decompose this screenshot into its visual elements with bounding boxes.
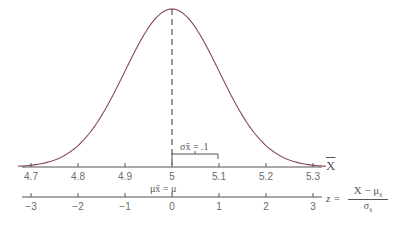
x-axis-label: X bbox=[326, 158, 335, 174]
z-formula-lhs: z = bbox=[326, 192, 340, 204]
z-formula-label: z = X − μx̄ σx̄ bbox=[326, 184, 396, 224]
z-tick-label: 3 bbox=[310, 201, 316, 212]
x-tick-label: 4.8 bbox=[71, 171, 85, 182]
z-formula-numerator-text: X − μ bbox=[354, 184, 380, 196]
z-formula-numerator-sub: x̄ bbox=[379, 192, 382, 198]
z-formula-fraction: X − μx̄ σx̄ bbox=[348, 184, 388, 213]
x-tick-label: 5.1 bbox=[212, 171, 226, 182]
std-error-bracket bbox=[172, 151, 218, 159]
z-formula-denominator-sub: x̄ bbox=[369, 207, 372, 213]
x-tick-label: 5.2 bbox=[259, 171, 273, 182]
z-formula-numerator: X − μx̄ bbox=[348, 184, 388, 200]
sigma-label: σx̄ = .1 bbox=[180, 141, 209, 152]
x-tick-label: 5 bbox=[169, 171, 175, 182]
mean-label-text: μx̄ = μ bbox=[150, 183, 176, 194]
z-tick-label: 0 bbox=[169, 201, 175, 212]
x-tick-label: 4.7 bbox=[24, 171, 38, 182]
x-tick-label: 4.9 bbox=[118, 171, 132, 182]
z-tick-label: 1 bbox=[216, 201, 222, 212]
x-axis-label-text: X bbox=[326, 158, 335, 173]
mean-label: μx̄ = μ bbox=[150, 183, 176, 194]
z-formula-denominator: σx̄ bbox=[348, 200, 388, 213]
z-tick-label: −2 bbox=[72, 201, 83, 212]
x-tick-label: 5.3 bbox=[306, 171, 320, 182]
z-tick-label: −3 bbox=[25, 201, 36, 212]
z-tick-label: −1 bbox=[119, 201, 130, 212]
z-tick-label: 2 bbox=[263, 201, 269, 212]
sigma-label-text: σx̄ = .1 bbox=[180, 141, 209, 152]
